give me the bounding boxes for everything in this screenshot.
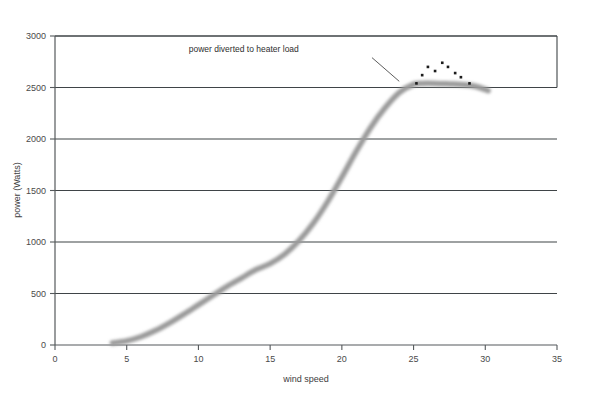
y-axis-title: power (Watts) [12, 162, 22, 218]
y-tick-label: 0 [41, 340, 46, 350]
x-axis-ticks [55, 345, 557, 350]
chart-canvas: 050010001500200025003000 05101520253035 … [0, 0, 594, 403]
data-point [415, 82, 418, 85]
x-tick-label: 35 [552, 354, 562, 364]
data-point [427, 66, 430, 69]
y-axis-ticks [50, 36, 55, 345]
data-point [447, 66, 450, 69]
y-tick-label: 2000 [26, 134, 46, 144]
y-tick-label: 1000 [26, 237, 46, 247]
y-tick-label: 1500 [26, 186, 46, 196]
annotation-power-diverted: power diverted to heater load [189, 44, 299, 54]
data-point [454, 72, 457, 75]
x-axis-title: wind speed [282, 374, 329, 384]
wind-power-curve-chart: 050010001500200025003000 05101520253035 … [0, 0, 594, 403]
x-tick-label: 15 [265, 354, 275, 364]
x-tick-label: 0 [52, 354, 57, 364]
data-point [421, 74, 424, 77]
y-tick-label: 2500 [26, 83, 46, 93]
x-tick-label: 30 [480, 354, 490, 364]
y-axis-tick-labels: 050010001500200025003000 [26, 31, 46, 350]
x-tick-label: 5 [124, 354, 129, 364]
x-tick-label: 25 [409, 354, 419, 364]
data-point [434, 70, 437, 73]
x-tick-label: 20 [337, 354, 347, 364]
y-tick-label: 500 [31, 289, 46, 299]
y-tick-label: 3000 [26, 31, 46, 41]
data-point [468, 82, 471, 85]
data-point [441, 61, 444, 64]
data-point [460, 76, 463, 79]
x-tick-label: 10 [193, 354, 203, 364]
x-axis-tick-labels: 05101520253035 [52, 354, 562, 364]
